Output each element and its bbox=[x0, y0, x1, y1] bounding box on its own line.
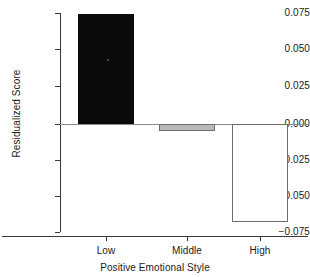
y-tick-label: 0.075 bbox=[258, 8, 310, 18]
bar-low[interactable] bbox=[78, 14, 134, 124]
x-tick-mark bbox=[187, 236, 188, 241]
y-tick-label: 0.025 bbox=[258, 81, 310, 91]
y-tick-mark bbox=[55, 49, 60, 50]
y-tick-mark bbox=[55, 160, 60, 161]
y-tick-mark bbox=[55, 196, 60, 197]
y-tick-mark bbox=[55, 13, 60, 14]
x-tick-label-low: Low bbox=[66, 245, 146, 256]
x-tick-label-high: High bbox=[220, 245, 300, 256]
x-tick-mark bbox=[260, 236, 261, 241]
x-axis-title: Positive Emotional Style bbox=[0, 262, 310, 273]
x-tick-mark bbox=[106, 236, 107, 241]
y-axis-line bbox=[60, 13, 61, 232]
bar-speck bbox=[107, 59, 109, 61]
bar-high[interactable] bbox=[232, 124, 288, 222]
y-tick-mark bbox=[55, 86, 60, 87]
y-axis-title: Residualized Score bbox=[11, 54, 22, 174]
x-tick-label-middle: Middle bbox=[147, 245, 227, 256]
bar-middle[interactable] bbox=[159, 124, 215, 131]
y-tick-mark bbox=[55, 232, 60, 233]
x-axis-line bbox=[2, 236, 308, 237]
y-tick-label: 0.050 bbox=[258, 44, 310, 54]
bar-chart-figure: Residualized Score 0.075 0.050 0.025 0.0… bbox=[0, 0, 310, 277]
